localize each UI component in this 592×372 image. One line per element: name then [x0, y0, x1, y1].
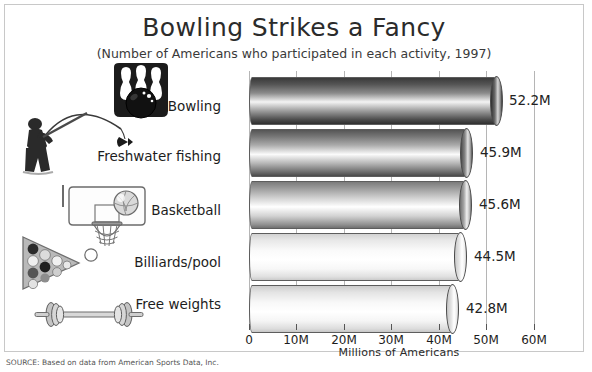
source-note: SOURCE: Based on data from American Spor…	[6, 358, 219, 367]
x-tick-0	[249, 324, 250, 330]
value-label-free-weights: 42.8M	[466, 302, 508, 316]
bar-row-freshwater-fishing: 45.9M	[249, 129, 581, 177]
x-ticklabel-0: 0	[245, 333, 253, 347]
x-ticklabel-60: 60M	[521, 333, 547, 347]
category-label-freshwater-fishing: Freshwater fishing	[97, 148, 221, 164]
bar-row-basketball: 45.6M	[249, 181, 581, 229]
bar-bowling	[249, 77, 497, 125]
value-label-freshwater-fishing: 45.9M	[480, 146, 522, 160]
bar-cap-freshwater-fishing	[460, 128, 473, 178]
x-tick-30	[391, 324, 392, 330]
x-ticklabel-10: 10M	[283, 333, 309, 347]
bar-row-free-weights: 42.8M	[249, 285, 581, 333]
free-weights-icon	[29, 297, 149, 337]
billiards-icon	[17, 233, 109, 297]
x-tick-40	[439, 324, 440, 330]
bar-cap-basketball	[459, 180, 472, 230]
bar-cap-bowling	[490, 76, 503, 126]
fishing-icon	[13, 93, 143, 182]
category-label-basketball: Basketball	[151, 202, 221, 218]
bar-basketball	[249, 181, 466, 229]
x-axis: 0 10M 20M 30M 40M 50M 60M	[249, 329, 581, 330]
x-tick-50	[486, 324, 487, 330]
x-ticklabel-20: 20M	[331, 333, 357, 347]
bar-row-billiards-pool: 44.5M	[249, 233, 581, 281]
x-tick-60	[534, 324, 535, 330]
value-label-bowling: 52.2M	[509, 94, 551, 108]
x-axis-title: Millions of Americans	[249, 346, 549, 359]
x-ticklabel-50: 50M	[473, 333, 499, 347]
bar-row-bowling: 52.2M	[249, 77, 581, 125]
bar-billiards-pool	[249, 233, 461, 281]
x-ticklabel-30: 30M	[378, 333, 404, 347]
chart-subtitle: (Number of Americans who participated in…	[5, 46, 583, 61]
x-tick-10	[296, 324, 297, 330]
category-label-billiards-pool: Billiards/pool	[134, 254, 221, 270]
x-ticklabel-40: 40M	[426, 333, 452, 347]
bar-free-weights	[249, 285, 453, 333]
x-tick-20	[344, 324, 345, 330]
category-label-bowling: Bowling	[168, 98, 221, 114]
plot-area: 52.2M 45.9M 45.6M 44.5M 42.8M	[249, 71, 581, 329]
value-label-billiards-pool: 44.5M	[474, 250, 516, 264]
chart-title: Bowling Strikes a Fancy	[5, 13, 583, 42]
category-label-free-weights: Free weights	[136, 296, 222, 312]
chart-frame: Bowling Strikes a Fancy (Number of Ameri…	[4, 4, 584, 352]
bar-cap-free-weights	[446, 284, 459, 334]
bar-freshwater-fishing	[249, 129, 467, 177]
bar-cap-billiards-pool	[454, 232, 467, 282]
value-label-basketball: 45.6M	[479, 198, 521, 212]
